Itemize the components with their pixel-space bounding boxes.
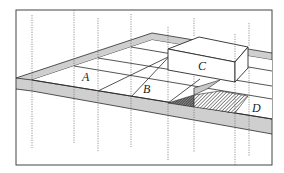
label-c: C xyxy=(198,59,207,73)
label-b: B xyxy=(143,82,151,96)
label-d: D xyxy=(251,101,261,115)
diagram-canvas: A B C D xyxy=(0,0,284,173)
label-a: A xyxy=(81,70,90,84)
grid-floor-diagram: A B C D xyxy=(0,0,284,173)
